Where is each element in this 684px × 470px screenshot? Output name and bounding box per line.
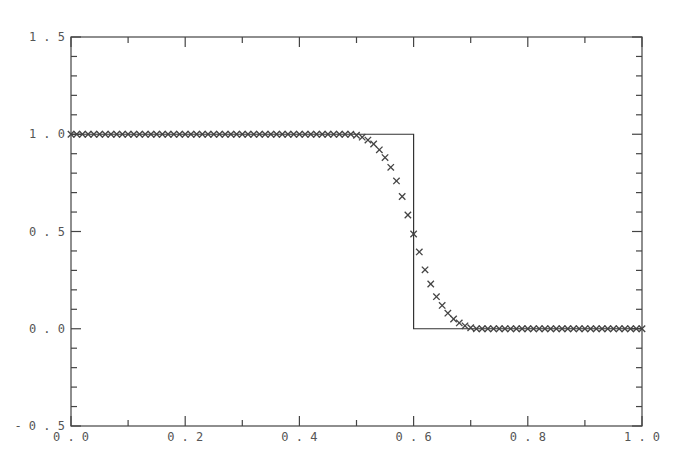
x-tick-label: 0 . 4 <box>281 430 317 444</box>
axis-ticks <box>71 37 642 426</box>
chart: 0 . 00 . 20 . 40 . 60 . 81 . 0 - 0 . 50 … <box>0 0 684 470</box>
y-tick-label: 1 . 5 <box>29 30 65 44</box>
x-tick-label: 0 . 6 <box>396 430 432 444</box>
numerical-solution-markers <box>68 131 645 332</box>
x-marker <box>450 316 456 322</box>
plot-axes <box>71 37 642 426</box>
x-marker <box>376 147 382 153</box>
y-tick-label: 1 . 0 <box>29 127 65 141</box>
x-tick-labels: 0 . 00 . 20 . 40 . 60 . 81 . 0 <box>53 430 660 444</box>
plot-frame <box>71 37 642 426</box>
x-marker <box>388 164 394 170</box>
x-marker <box>428 281 434 287</box>
x-marker <box>399 193 405 199</box>
x-marker <box>433 293 439 299</box>
x-tick-label: 0 . 2 <box>167 430 203 444</box>
x-tick-label: 0 . 8 <box>510 430 546 444</box>
x-marker <box>405 212 411 218</box>
x-marker <box>468 325 474 331</box>
x-marker <box>439 302 445 308</box>
x-marker <box>416 249 422 255</box>
x-marker <box>445 310 451 316</box>
x-marker <box>422 267 428 273</box>
y-tick-label: 0 . 0 <box>29 322 65 336</box>
x-marker <box>353 132 359 138</box>
y-tick-labels: - 0 . 50 . 00 . 51 . 01 . 5 <box>14 30 65 433</box>
y-tick-label: 0 . 5 <box>29 225 65 239</box>
x-tick-label: 1 . 0 <box>624 430 660 444</box>
exact-solution-line <box>71 134 642 329</box>
x-marker <box>370 141 376 147</box>
x-marker <box>382 154 388 160</box>
y-tick-label: - 0 . 5 <box>14 419 65 433</box>
x-marker <box>393 178 399 184</box>
